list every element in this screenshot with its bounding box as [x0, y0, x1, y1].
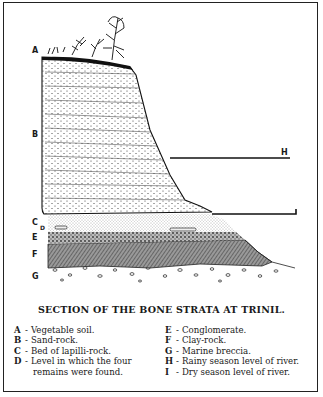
label-h: H [281, 148, 288, 157]
figure-title: SECTION OF THE BONE STRATA AT TRINIL. [0, 304, 323, 315]
legend-item-f: F-Clay-rock. [165, 335, 299, 345]
label-c: C [32, 218, 38, 227]
legend-item-e: E-Conglomerate. [165, 325, 299, 335]
legend-item-i: I-Dry season level of river. [165, 367, 299, 377]
sand-rock-layer [42, 57, 212, 214]
label-a: A [32, 46, 38, 55]
legend-item-c: C-Bed of lapilli-rock. [14, 346, 132, 356]
legend-item-b: B-Sand-rock. [14, 335, 132, 345]
lapilli-rock-layer [48, 214, 236, 232]
legend-item-d-continuation: remains were found. [14, 367, 132, 377]
legend-item-a: A-Vegetable soil. [14, 325, 132, 335]
label-d: D [40, 224, 45, 231]
strata-diagram [0, 0, 323, 300]
legend-right: E-Conglomerate. F-Clay-rock. G-Marine br… [165, 325, 299, 377]
vegetation-icon [48, 17, 124, 60]
legend-item-h: H-Rainy season level of river. [165, 356, 299, 366]
marine-breccia-layer [53, 267, 278, 282]
label-f: F [32, 250, 37, 259]
label-b: B [32, 130, 38, 139]
legend-left: A-Vegetable soil. B-Sand-rock. C-Bed of … [14, 325, 132, 377]
label-g: G [32, 272, 39, 281]
label-e: E [32, 233, 37, 242]
legend-item-g: G-Marine breccia. [165, 346, 299, 356]
clay-rock-layer [48, 240, 272, 268]
dry-season-river-level [212, 209, 296, 214]
legend-item-d: D-Level in which the four [14, 356, 132, 366]
